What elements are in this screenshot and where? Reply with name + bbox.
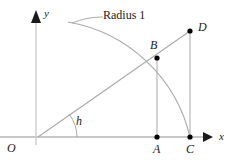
radius-caption: Radius 1 xyxy=(103,9,145,21)
unit-circle-arc xyxy=(68,22,190,137)
x-axis-label: x xyxy=(219,131,224,142)
point-label-c: C xyxy=(186,143,194,155)
point-label-b: B xyxy=(150,39,157,51)
point-label-o: O xyxy=(7,142,16,154)
point-dot-a xyxy=(154,134,159,139)
trigonometry-figure: Radius 1 y x O A C B D h xyxy=(0,0,232,165)
ray-od xyxy=(38,31,190,137)
y-axis-arrowhead xyxy=(31,10,41,23)
radius-caption-leader xyxy=(72,17,103,23)
point-dot-c xyxy=(187,134,192,139)
point-dot-b xyxy=(154,55,159,60)
point-label-a: A xyxy=(153,143,160,155)
angle-label-h: h xyxy=(76,115,82,127)
x-axis-arrowhead xyxy=(203,132,213,142)
y-axis-label: y xyxy=(44,8,49,19)
point-dot-d xyxy=(187,28,192,33)
point-label-d: D xyxy=(198,21,207,33)
